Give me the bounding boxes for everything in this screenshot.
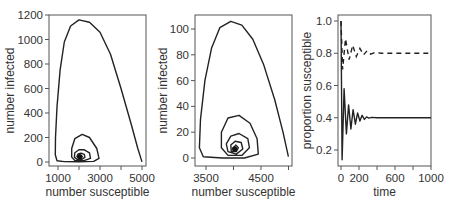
x-axis-label: number susceptible [191,185,295,199]
y-axis-label: number infected [156,47,170,133]
y-tick-label: 0.4 [316,112,333,124]
y-tick-label: 100 [170,23,189,35]
plot-frame [195,15,292,166]
y-tick-label: 80 [176,49,189,61]
y-tick-label: 200 [24,132,43,144]
middle-phase-plot: 02040608010035004500number susceptiblenu… [156,15,296,199]
x-tick-label: 1000 [45,172,71,184]
y-tick-label: 0 [183,152,189,164]
y-tick-label: 0.8 [316,47,332,59]
series-line [55,20,142,162]
y-tick-label: 400 [24,107,43,119]
equilibrium-point [77,154,82,159]
equilibrium-point [232,146,237,151]
y-tick-label: 1200 [17,9,43,21]
x-tick-label: 3500 [193,172,219,184]
y-tick-label: 0 [37,156,43,168]
y-tick-label: 600 [24,83,43,95]
y-tick-label: 0.2 [316,144,332,156]
x-tick-label: 200 [349,172,368,184]
y-axis-label: number infected [3,47,17,133]
right-time-series-plot: 0.20.40.60.81.002006001000timeproportion… [300,15,444,199]
x-tick-label: 600 [385,172,404,184]
x-tick-label: 1000 [418,172,444,184]
y-axis-label: proportion susceptible [300,31,314,149]
y-tick-label: 0.6 [316,80,332,92]
x-axis-label: time [373,185,396,199]
plot-frame [338,15,431,166]
y-tick-label: 800 [24,58,43,70]
x-tick-label: 0 [338,172,344,184]
y-tick-label: 1000 [17,34,43,46]
series-line [341,21,431,160]
x-tick-label: 5000 [129,172,155,184]
y-tick-label: 60 [176,75,189,87]
dashed-series-line [341,21,431,69]
x-tick-label: 4500 [248,172,274,184]
series-line [199,21,288,158]
left-phase-plot: 020040060080010001200100030005000number … [3,9,155,199]
y-tick-label: 40 [176,100,189,112]
plot-frame [49,15,146,166]
x-axis-label: number susceptible [45,185,149,199]
x-tick-label: 3000 [87,172,113,184]
chart-figure: 020040060080010001200100030005000number … [0,0,455,203]
y-tick-label: 1.0 [316,15,332,27]
y-tick-label: 20 [176,126,189,138]
